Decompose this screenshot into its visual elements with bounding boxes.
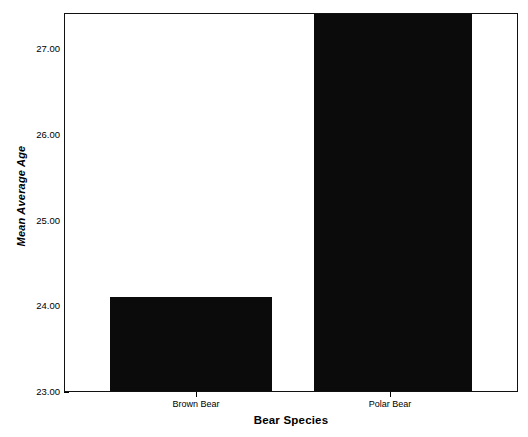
y-axis-tick-labels: 23.00 24.00 25.00 26.00 27.00 (18, 0, 60, 437)
y-tick-label-25: 25.00 (20, 216, 60, 226)
y-tick-label-27: 27.00 (20, 44, 60, 54)
x-tick-mark-polar-bear (390, 392, 391, 397)
x-tick-label-polar-bear: Polar Bear (369, 399, 412, 409)
y-tick-mark-23 (64, 392, 69, 393)
x-tick-mark-brown-bear (196, 392, 197, 397)
y-tick-label-23: 23.00 (20, 387, 60, 397)
bar-brown-bear[interactable] (110, 297, 272, 391)
y-tick-label-26: 26.00 (20, 130, 60, 140)
bar-polar-bear[interactable] (314, 14, 472, 391)
bar-chart: Mean Average Age 23.00 24.00 25.00 26.00… (0, 0, 528, 437)
plot-area (64, 13, 518, 392)
x-tick-label-brown-bear: Brown Bear (172, 399, 219, 409)
x-axis-title: Bear Species (64, 414, 518, 426)
y-tick-label-24: 24.00 (20, 301, 60, 311)
